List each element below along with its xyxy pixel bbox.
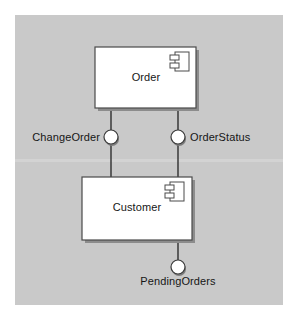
interface-pending-orders[interactable] (171, 260, 186, 276)
interface-order-status-label: OrderStatus (190, 132, 250, 143)
interface-circle[interactable] (171, 260, 185, 274)
interface-circle[interactable] (171, 130, 185, 144)
interface-pending-orders-label: PendingOrders (140, 276, 215, 287)
component-order-label: Order (132, 72, 161, 83)
component-customer-label: Customer (113, 202, 161, 213)
uml-component-diagram: Order Customer ChangeOrder OrderStatus P… (0, 0, 299, 323)
interface-change-order-label: ChangeOrder (32, 132, 100, 143)
interface-change-order[interactable] (104, 130, 119, 146)
interface-order-status[interactable] (171, 130, 186, 146)
interface-circle[interactable] (104, 130, 118, 144)
